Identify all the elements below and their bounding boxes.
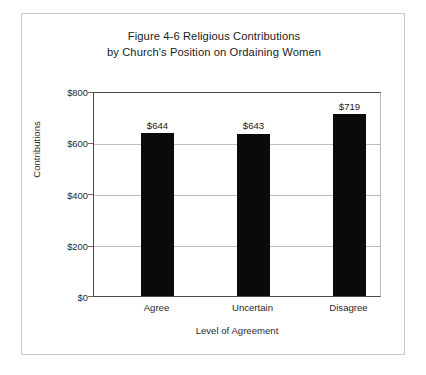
bar-uncertain[interactable]	[237, 134, 270, 296]
figure-frame: Figure 4-6 Religious Contributions by Ch…	[21, 13, 405, 355]
y-axis-tick-labels: $800 $600 $400 $200 $0	[22, 92, 88, 297]
y-tick-label-200: $200	[26, 240, 88, 251]
y-tick-label-800: $800	[26, 87, 88, 98]
x-axis-tick-labels: Agree Uncertain Disagree	[93, 302, 381, 318]
y-tick-label-400: $400	[26, 189, 88, 200]
chart-title-line-2: by Church's Position on Ordaining Women	[22, 44, 406, 60]
chart-title-line-1: Figure 4-6 Religious Contributions	[22, 28, 406, 44]
chart-title: Figure 4-6 Religious Contributions by Ch…	[22, 28, 406, 60]
bar-value-uncertain: $643	[219, 120, 289, 131]
bar-value-agree: $644	[123, 120, 193, 131]
y-tick-label-0: $0	[26, 292, 88, 303]
bar-disagree[interactable]	[333, 114, 366, 296]
bar-agree[interactable]	[141, 133, 174, 296]
x-axis-title: Level of Agreement	[93, 325, 381, 336]
x-tick-label-disagree: Disagree	[301, 302, 397, 313]
x-tick-label-uncertain: Uncertain	[205, 302, 301, 313]
x-tick-label-agree: Agree	[109, 302, 205, 313]
plot-area: $644 $643 $719	[93, 92, 381, 297]
bar-value-disagree: $719	[315, 101, 385, 112]
y-tick-label-600: $600	[26, 138, 88, 149]
